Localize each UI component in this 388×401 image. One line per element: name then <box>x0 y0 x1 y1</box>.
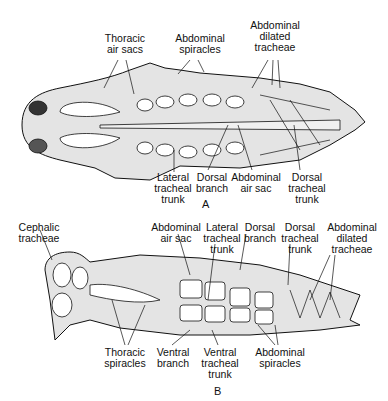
panel-letter-a: A <box>202 198 209 210</box>
label-ventral-branch: Ventral branch <box>153 347 193 369</box>
label-abdominal-spiracles-b: Abdominal spiracles <box>252 347 308 369</box>
label-lateral-tracheal-trunk-b: Lateral tracheal trunk <box>200 222 244 255</box>
label-dorsal-branch-b: Dorsal branch <box>240 222 280 244</box>
label-ventral-tracheal-trunk: Ventral tracheal trunk <box>198 347 242 380</box>
label-abdominal-dilated-tracheae-a: Abdominal dilated tracheae <box>245 20 305 53</box>
label-abdominal-air-sac-b: Abdominal air sac <box>148 222 204 244</box>
label-lateral-tracheal-trunk-a: Lateral tracheal trunk <box>148 172 198 205</box>
label-abdominal-air-sac-a: Abdominal air sac <box>228 172 284 194</box>
label-dorsal-tracheal-trunk-a: Dorsal tracheal trunk <box>283 172 331 205</box>
label-thoracic-spiracles: Thoracic spiracles <box>100 347 150 369</box>
panel-letter-b: B <box>214 385 221 397</box>
label-cephalic-tracheae: Cephalic tracheae <box>14 222 64 244</box>
label-abdominal-spiracles-a: Abdominal spiracles <box>170 33 230 55</box>
label-dorsal-tracheal-trunk-b: Dorsal tracheal trunk <box>278 222 322 255</box>
label-abdominal-dilated-tracheae-b: Abdominal dilated tracheae <box>322 222 382 255</box>
label-thoracic-air-sacs: Thoracic air sacs <box>100 33 150 55</box>
label-dorsal-branch-a: Dorsal branch <box>192 172 232 194</box>
